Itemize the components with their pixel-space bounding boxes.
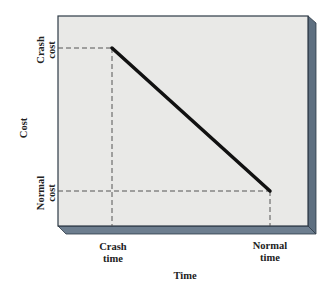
frame-right-edge — [308, 16, 316, 234]
normal-time-label-2: time — [260, 252, 280, 263]
crash-cost-label-2: cost — [46, 41, 57, 59]
normal-time-label-1: Normal — [253, 240, 287, 251]
x-axis-label: Time — [173, 270, 196, 281]
normal-cost-label-2: cost — [46, 184, 57, 202]
crash-time-label-1: Crash — [99, 241, 127, 252]
frame-bottom-edge — [58, 226, 316, 234]
crash-cost-label-1: Crash — [35, 36, 46, 64]
normal-cost-label-1: Normal — [35, 176, 46, 210]
time-cost-diagram: Crash cost Cost Normal cost Crash time N… — [0, 0, 333, 288]
y-axis-label: Cost — [18, 117, 29, 138]
crash-time-label-2: time — [103, 253, 123, 264]
